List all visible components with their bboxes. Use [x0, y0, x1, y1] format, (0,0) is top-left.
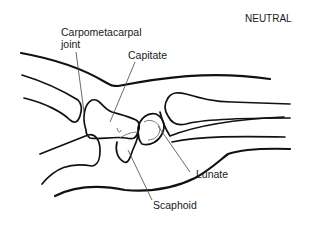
- leader-lunate: [158, 126, 190, 172]
- view-title: NEUTRAL: [245, 13, 292, 25]
- label-scaphoid: Scaphoid: [153, 199, 197, 211]
- lunate-inner-contour: [144, 120, 160, 140]
- radius-upper-outline: [168, 93, 290, 104]
- metacarpal-second: [40, 135, 100, 184]
- label-capitate: Capitate: [128, 49, 167, 61]
- metacarpal-upper: [22, 75, 81, 122]
- capitate-inner-line: [117, 128, 121, 132]
- volar-skin-outline: [55, 149, 290, 196]
- label-lunate: Lunate: [196, 168, 228, 180]
- label-carpometacarpal-joint: Carpometacarpal joint: [61, 26, 142, 50]
- label-carpometacarpal-line1: Carpometacarpal: [61, 26, 142, 38]
- ulna-lower-outline: [172, 137, 285, 142]
- wrist-diagram: NEUTRAL Carpometacarpal joint Capitate L…: [0, 0, 309, 227]
- leader-scaphoid: [128, 150, 152, 200]
- wrist-bones-drawing: [0, 0, 309, 227]
- leader-capitate: [110, 62, 135, 122]
